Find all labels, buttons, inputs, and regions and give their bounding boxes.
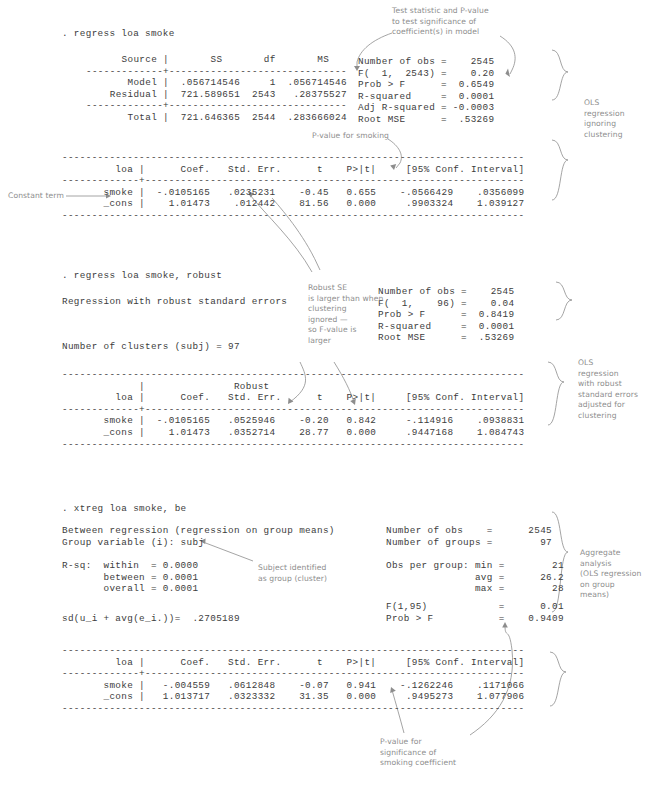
note-ols-robust-adjusted: OLS regression with robust standard erro… bbox=[578, 358, 638, 422]
note-pvalue-for-smoking: P-value for smoking bbox=[312, 131, 389, 142]
note-constant-term: Constant term bbox=[8, 191, 64, 202]
note-subject-identified: Subject identified as group (cluster) bbox=[258, 563, 327, 584]
command-xtreg-between: . xtreg loa smoke, be bbox=[62, 503, 187, 515]
command-regress-robust: . regress loa smoke, robust bbox=[62, 270, 222, 282]
xtreg-rsq: R-sq: within = 0.0000 between = 0.0001 o… bbox=[62, 560, 198, 595]
coef-table-plain: ----------------------------------------… bbox=[62, 152, 524, 222]
stata-output-document: . regress loa smoke Source | SS df MS --… bbox=[0, 0, 652, 790]
xtreg-stats-top: Number of obs = 2545 Number of groups = … bbox=[386, 525, 552, 548]
note-test-statistic: Test statistic and P-value to test signi… bbox=[392, 6, 489, 38]
robust-header-line-2: Number of clusters (subj) = 97 bbox=[62, 341, 240, 353]
model-stats-plain: Number of obs = 2545 F( 1, 2543) = 0.20 … bbox=[358, 56, 494, 126]
command-regress-plain: . regress loa smoke bbox=[62, 28, 175, 40]
model-stats-robust: Number of obs = 2545 F( 1, 96) = 0.04 Pr… bbox=[378, 286, 514, 344]
coef-table-robust: ----------------------------------------… bbox=[62, 369, 524, 450]
note-robust-se: Robust SE is larger than when clustering… bbox=[308, 283, 383, 347]
xtreg-header: Between regression (regression on group … bbox=[62, 525, 335, 548]
robust-header-line-1: Regression with robust standard errors bbox=[62, 296, 287, 308]
note-ols-ignoring-clustering: OLS regression ignoring clustering bbox=[584, 98, 625, 140]
xtreg-stats-f: F(1,95) = 0.01 Prob > F = 0.9409 bbox=[386, 601, 564, 624]
anova-table-plain: Source | SS df MS -------------+--------… bbox=[86, 54, 347, 124]
xtreg-sd-line: sd(u_i + avg(e_i.))= .2705189 bbox=[62, 613, 240, 625]
xtreg-stats-group: Obs per group: min = 21 avg = 26.2 max =… bbox=[386, 560, 564, 595]
note-pvalue-smoking-coefficient: P-value for significance of smoking coef… bbox=[380, 737, 456, 769]
note-aggregate-analysis: Aggregate analysis (OLS regression on gr… bbox=[580, 548, 641, 601]
coef-table-xtreg: ----------------------------------------… bbox=[62, 645, 524, 715]
